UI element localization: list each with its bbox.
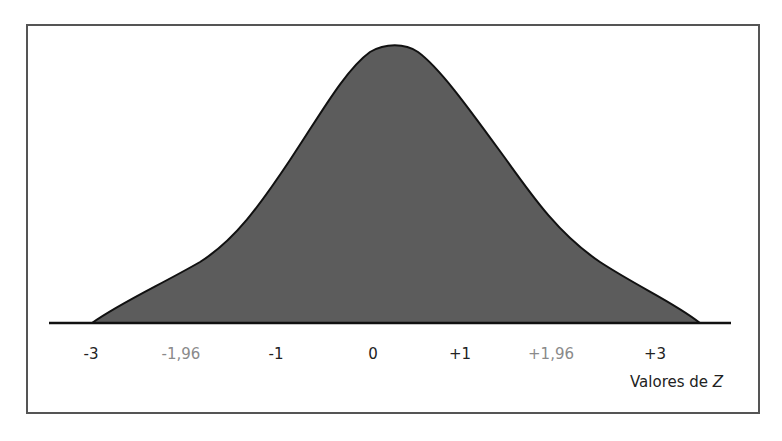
x-tick-minus-3: -3	[84, 345, 99, 363]
x-axis-label: Valores de Z	[630, 373, 723, 391]
x-tick-0: 0	[368, 345, 378, 363]
x-tick-plus-3: +3	[644, 345, 666, 363]
x-tick-minus-1-96: -1,96	[162, 345, 201, 363]
x-tick-minus-1: -1	[269, 345, 284, 363]
x-tick-plus-1-96: +1,96	[528, 345, 574, 363]
normal-curve-area	[92, 45, 700, 323]
x-axis-label-prefix: Valores de	[630, 373, 708, 391]
x-axis-label-variable: Z	[713, 373, 723, 391]
x-tick-plus-1: +1	[449, 345, 471, 363]
